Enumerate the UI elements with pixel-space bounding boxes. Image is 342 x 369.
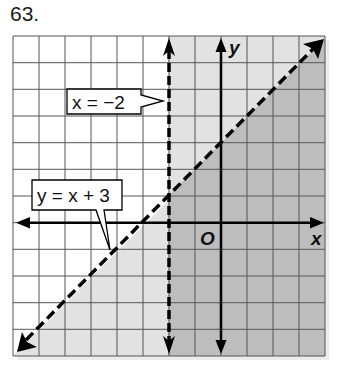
y-axis-label: y	[228, 37, 241, 58]
label-x-neg2-text: x = −2	[72, 92, 125, 113]
inequality-graph: x = −2 y = x + 3 y x O	[0, 0, 342, 369]
label-y-eq-x-plus-3-text: y = x + 3	[37, 185, 110, 206]
origin-label: O	[200, 228, 215, 249]
x-axis-label: x	[310, 228, 323, 249]
